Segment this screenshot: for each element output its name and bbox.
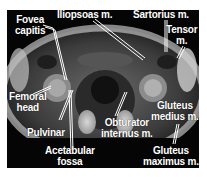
- label-obturator-internus: Obturator internus m.: [101, 117, 153, 139]
- label-sartorius: Sartorius m.: [133, 10, 189, 20]
- label-pulvinar: Pulvinar: [27, 128, 65, 138]
- label-femoral-head: Femoral head: [9, 91, 47, 113]
- label-gluteus-medius: Gluteus medius m.: [151, 100, 199, 122]
- label-tensor: Tensor m.: [166, 24, 197, 46]
- label-iliopsoas: Iliopsoas m.: [57, 10, 112, 20]
- label-fovea-capitis: Fovea capitis: [15, 14, 45, 36]
- label-acetabular-fossa: Acetabular fossa: [45, 145, 95, 167]
- label-gluteus-maximus: Gluteus maximus m.: [143, 145, 199, 167]
- mri-figure: Fovea capitis Iliopsoas m. Sartorius m. …: [7, 10, 199, 168]
